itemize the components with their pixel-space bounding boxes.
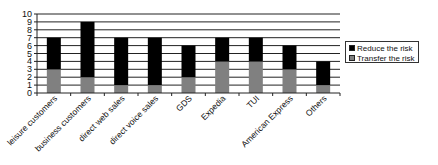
legend-label-transfer: Transfer the risk — [357, 54, 415, 63]
bar-segment — [283, 46, 297, 70]
legend: Reduce the risk Transfer the risk — [345, 41, 419, 63]
bar-segment — [316, 61, 330, 85]
bar-segment — [182, 46, 196, 78]
bar-segment — [249, 61, 263, 93]
x-tick-label: Expedia — [199, 93, 228, 122]
bar-segment — [114, 85, 128, 93]
x-tick-label: TUI — [244, 93, 261, 110]
y-axis-ticks: 012345678910 — [22, 9, 37, 98]
x-tick-label: Others — [303, 93, 328, 118]
bar-segment — [215, 38, 229, 62]
legend-swatch-reduce — [349, 45, 355, 51]
legend-label-reduce: Reduce the risk — [357, 44, 413, 53]
bar-segment — [81, 77, 95, 93]
bar-segment — [316, 85, 330, 93]
legend-item-reduce: Reduce the risk — [349, 43, 415, 53]
bar-segment — [47, 69, 61, 93]
bar-segment — [182, 77, 196, 93]
bar-segment — [215, 61, 229, 93]
bar-segment — [148, 38, 162, 85]
bar-segment — [81, 22, 95, 77]
y-tick-label: 10 — [22, 9, 32, 19]
legend-item-transfer: Transfer the risk — [349, 53, 415, 63]
x-tick-label: business customers — [33, 93, 93, 153]
x-axis-labels: leisure customersbusiness customersdirec… — [5, 93, 329, 153]
bar-segment — [283, 69, 297, 93]
bars — [47, 22, 330, 93]
bar-segment — [47, 38, 61, 70]
bar-segment — [148, 85, 162, 93]
bar-segment — [114, 38, 128, 85]
stacked-bar-chart: 012345678910 leisure customersbusiness c… — [0, 0, 438, 165]
bar-segment — [249, 38, 263, 62]
legend-swatch-transfer — [349, 55, 355, 61]
x-tick-label: GDS — [174, 93, 194, 113]
